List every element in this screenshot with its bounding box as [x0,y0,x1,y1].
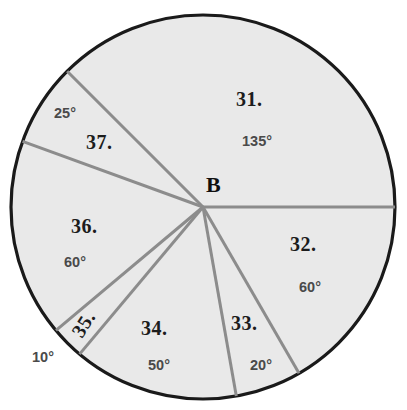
circle-diagram [0,0,407,410]
pie-figure: B 31. 135° 37. 25° 36. 60° 35. 10° 34. 5… [0,0,407,410]
